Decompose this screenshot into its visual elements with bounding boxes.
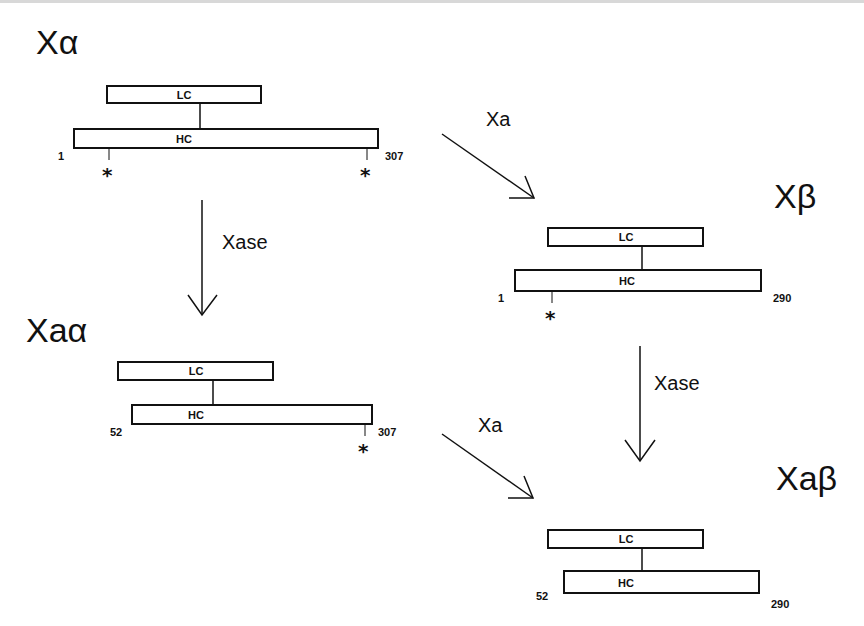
title-x-alpha: Xα (36, 23, 78, 61)
hc-end-residue: 290 (773, 292, 791, 304)
lc-label: LC (619, 533, 634, 545)
heavy-chain-box (74, 129, 378, 148)
arrow-xa-bottom: Xa (442, 414, 533, 498)
hc-label: HC (619, 275, 635, 287)
title-xa-beta: Xaβ (776, 459, 837, 497)
heavy-chain-box (515, 270, 761, 291)
arrow-shaft (442, 434, 533, 498)
title-xa-alpha: Xaα (26, 311, 87, 349)
hc-end-residue: 290 (771, 598, 789, 610)
hc-label: HC (188, 409, 204, 421)
species-xa-beta: Xaβ LC HC 52 290 (536, 459, 837, 610)
hc-end-residue: 307 (378, 426, 396, 438)
species-x-alpha: Xα LC HC 1 307 * * (36, 23, 403, 187)
hc-start-residue: 1 (58, 150, 64, 162)
cleavage-site-star: * (358, 439, 369, 463)
lc-label: LC (177, 89, 192, 101)
species-x-beta: Xβ LC HC 1 290 * (498, 177, 816, 330)
hc-label: HC (176, 133, 192, 145)
hc-start-residue: 52 (110, 426, 122, 438)
arrow-xase-right: Xase (625, 346, 700, 461)
factor-x-activation-diagram: Xα LC HC 1 307 * * Xa Xβ LC HC 1 290 * X… (0, 0, 864, 626)
hc-label: HC (618, 577, 634, 589)
arrow-label-xase: Xase (222, 231, 268, 253)
hc-start-residue: 52 (536, 590, 548, 602)
heavy-chain-box (132, 405, 372, 424)
arrow-label-xa: Xa (486, 108, 511, 130)
arrow-shaft (442, 134, 534, 198)
hc-start-residue: 1 (498, 292, 504, 304)
arrow-xa-top: Xa (442, 108, 534, 198)
lc-label: LC (189, 365, 204, 377)
arrow-xase-left: Xase (188, 200, 268, 315)
title-x-beta: Xβ (774, 177, 816, 215)
cleavage-site-star: * (360, 163, 371, 187)
heavy-chain-box (564, 571, 759, 593)
hc-end-residue: 307 (385, 150, 403, 162)
arrow-label-xase: Xase (654, 372, 700, 394)
lc-label: LC (619, 231, 634, 243)
species-xa-alpha: Xaα LC HC 52 307 * (26, 311, 396, 463)
cleavage-site-star: * (545, 306, 556, 330)
cleavage-site-star: * (102, 163, 113, 187)
arrow-label-xa: Xa (478, 414, 503, 436)
